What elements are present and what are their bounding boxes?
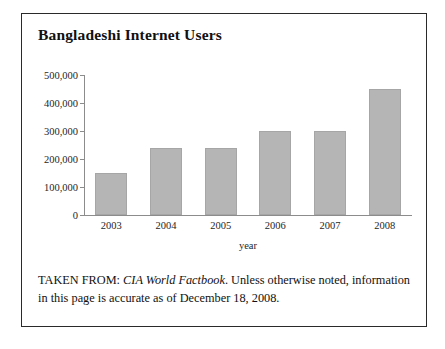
y-axis-tick-label: 500,000 xyxy=(22,70,78,81)
bar-2006 xyxy=(259,131,291,215)
x-axis-tick-label: 2005 xyxy=(210,220,231,231)
chart-plot-area: 0100,000200,000300,000400,000500,000 200… xyxy=(22,14,428,259)
y-axis-tick-label: 0 xyxy=(22,210,78,221)
y-axis-tick-label: 300,000 xyxy=(22,126,78,137)
bar-2005 xyxy=(205,148,237,215)
x-axis-line xyxy=(84,215,412,216)
x-axis-tick-label: 2004 xyxy=(156,220,177,231)
y-axis-tick-label: 400,000 xyxy=(22,98,78,109)
figure-caption: TAKEN FROM: CIA World Factbook. Unless o… xyxy=(38,272,410,308)
bar-2008 xyxy=(369,89,401,215)
bar-series xyxy=(84,75,412,215)
bar-2007 xyxy=(314,131,346,215)
x-axis-title: year xyxy=(84,240,412,251)
y-axis-tick-label: 200,000 xyxy=(22,154,78,165)
x-axis-tick-label: 2007 xyxy=(320,220,341,231)
bar-2003 xyxy=(95,173,127,215)
y-axis-tick-label: 100,000 xyxy=(22,182,78,193)
bar-2004 xyxy=(150,148,182,215)
x-axis-tick-label: 2003 xyxy=(101,220,122,231)
caption-prefix: TAKEN FROM: xyxy=(38,273,123,287)
y-axis-tick-mark xyxy=(80,215,84,216)
x-axis-tick-label: 2008 xyxy=(374,220,395,231)
x-axis-tick-label: 2006 xyxy=(265,220,286,231)
figure-frame: Bangladeshi Internet Users 0100,000200,0… xyxy=(21,13,427,327)
caption-source-title: CIA World Factbook xyxy=(123,273,225,287)
